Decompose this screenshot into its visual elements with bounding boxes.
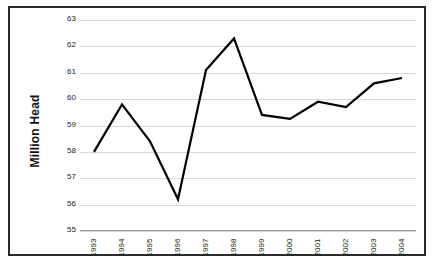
x-axis-tick-label-text: 1994 [117, 239, 126, 257]
x-axis-tick-label-text: 2000 [285, 239, 294, 257]
y-axis-tick-label: 59 [58, 120, 76, 130]
series-polyline [94, 38, 402, 199]
x-axis-tick-label-text: 1996 [173, 239, 182, 257]
x-axis-tick-label-text: 2001 [313, 239, 322, 257]
x-axis-tick-label-text: 2003 [369, 239, 378, 257]
y-axis-tick-label: 58 [58, 146, 76, 156]
x-axis-tick-label-text: 2004 [397, 239, 406, 257]
y-axis-tick-label: 63 [58, 14, 76, 24]
x-axis-tick-label: 2004 [382, 232, 422, 254]
x-axis-tick-label-text: 1997 [201, 239, 210, 257]
y-axis-tick-label: 57 [58, 172, 76, 182]
chart-frame: Million Head 636261605958575655 19931994… [8, 6, 426, 256]
y-axis-tick-label: 56 [58, 199, 76, 209]
x-axis-tick-label-text: 1999 [257, 239, 266, 257]
x-axis-tick-label-text: 1998 [229, 239, 238, 257]
x-axis-tick-label-text: 1993 [89, 239, 98, 257]
y-axis-tick-label: 61 [58, 67, 76, 77]
y-axis-tick-label: 60 [58, 93, 76, 103]
y-axis-title: Million Head [24, 8, 46, 254]
x-axis-tick-label-text: 2002 [341, 239, 350, 257]
y-axis-title-label: Million Head [28, 94, 42, 167]
plot-region: 636261605958575655 [58, 20, 416, 231]
y-axis-tick-label: 62 [58, 40, 76, 50]
x-axis-labels: 1993199419951996199719981999200020012002… [80, 232, 416, 271]
chart-plot-area: Million Head 636261605958575655 19931994… [10, 8, 424, 254]
line-series [80, 20, 416, 231]
x-axis-tick-label-text: 1995 [145, 239, 154, 257]
